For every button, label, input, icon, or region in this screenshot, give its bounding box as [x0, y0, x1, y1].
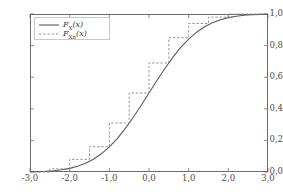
chart-legend: FX(x) FXn(x) — [34, 17, 110, 40]
legend-label-empirical-cdf: FXn(x) — [63, 29, 87, 40]
x-tick-label: -1,0 — [94, 174, 124, 183]
y-tick-label: 0,4 — [257, 104, 283, 113]
chart-figure: 0,00,20,40,60,81,0 -3,0-2,0-1,00,01,02,0… — [0, 0, 283, 194]
x-tick-label: -2,0 — [55, 174, 85, 183]
y-tick-label: 0,2 — [257, 135, 283, 144]
legend-entry-empirical-cdf: FXn(x) — [38, 29, 87, 39]
legend-sample-solid-line — [38, 21, 60, 29]
x-tick-label: -3,0 — [15, 174, 45, 183]
x-tick-label: 3,0 — [253, 174, 283, 183]
x-tick-label: 2,0 — [213, 174, 243, 183]
y-tick-label: 1,0 — [257, 9, 283, 18]
x-tick-label: 1,0 — [174, 174, 204, 183]
x-tick-label: 0,0 — [134, 174, 164, 183]
legend-sample-dashed-line — [38, 30, 60, 38]
y-tick-label: 0,8 — [257, 41, 283, 50]
y-tick-label: 0,6 — [257, 72, 283, 81]
